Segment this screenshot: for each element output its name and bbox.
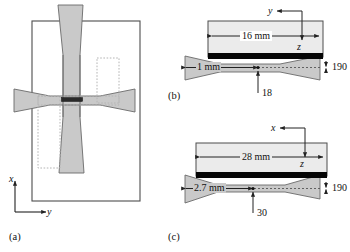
panel-c-bond-layer xyxy=(196,172,327,178)
schematic-svg xyxy=(0,0,350,252)
panel-c-axis-z-label: z xyxy=(300,159,304,169)
panel-b-dim-block-width: 16 mm xyxy=(240,31,272,41)
panel-c-dim-horn-waist: 2.7 mm xyxy=(193,183,226,193)
panel-a-axis-x-label: x xyxy=(9,174,13,184)
figure-root: x y (a) y z 16 mm 1 mm 190 18 (b) x z 28… xyxy=(0,0,350,252)
panel-c-waist-marker xyxy=(251,187,254,190)
panel-b-dim-gap-thickness: 190 xyxy=(332,62,347,72)
panel-c-label: (c) xyxy=(168,232,180,243)
panel-b-label: (b) xyxy=(168,91,180,102)
panel-b-waist-marker xyxy=(256,66,259,69)
panel-b-dim-offset: 18 xyxy=(262,88,272,98)
panel-b-dim-horn-waist: 1 mm xyxy=(196,62,221,72)
panel-c-dim-offset: 30 xyxy=(257,208,267,218)
panel-b-bond-layer xyxy=(208,53,323,59)
panel-a-graphic xyxy=(14,5,140,212)
panel-a-substrate-rect xyxy=(32,21,140,201)
panel-b-graphic xyxy=(185,11,326,93)
panel-c-axis-x-label: x xyxy=(271,123,275,133)
panel-a-label: (a) xyxy=(9,232,21,243)
panel-b-axis-y-label: y xyxy=(268,6,272,16)
panel-a-axis-y-label: y xyxy=(47,207,51,217)
panel-b-axis-z-label: z xyxy=(297,42,301,52)
panel-a-sample-bar xyxy=(62,98,83,102)
panel-c-graphic xyxy=(185,128,327,213)
panel-c-dim-gap-thickness: 190 xyxy=(332,183,347,193)
panel-c-dim-block-width: 28 mm xyxy=(240,152,272,162)
